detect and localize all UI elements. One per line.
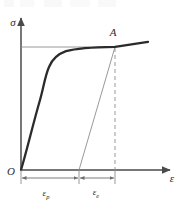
stress-strain-figure: σ ε O A εp εe [0, 0, 182, 201]
plastic-strain-label: εp [43, 188, 51, 200]
origin-label: O [7, 165, 15, 177]
dimension-group [21, 170, 115, 184]
elastic-strain-label: εe [93, 187, 100, 199]
elastic-strain-subscript: e [96, 192, 99, 199]
x-axis-label: ε [170, 172, 175, 184]
guide-lines-group [21, 47, 116, 170]
plastic-strain-subscript: p [45, 193, 50, 200]
labels-group: σ ε O A εp εe [7, 16, 175, 200]
point-a-label: A [109, 26, 117, 38]
y-axis-label: σ [10, 16, 16, 28]
unloading-line [79, 47, 115, 170]
stress-strain-diagram: σ ε O A εp εe [0, 0, 182, 201]
